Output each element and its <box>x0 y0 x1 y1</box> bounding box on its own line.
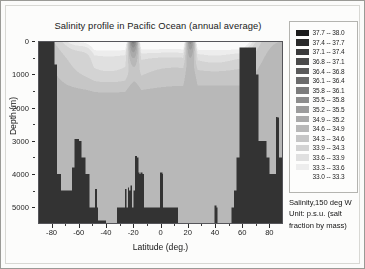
y-tick-label: 5000 <box>12 203 29 212</box>
legend-row: 35.8 -- 36.1 <box>296 86 345 96</box>
legend-row: 37.7 -- 38.0 <box>296 28 345 38</box>
legend-box: 37.7 -- 38.037.4 -- 37.737.1 -- 37.436.8… <box>289 21 358 193</box>
legend-label: 35.5 -- 35.8 <box>313 96 345 103</box>
x-tick-mark <box>269 224 270 228</box>
x-tick-label: 80 <box>265 228 273 237</box>
legend-swatch <box>296 145 309 152</box>
legend-label: 35.2 -- 35.5 <box>313 106 345 113</box>
legend-label: 33.3 -- 33.6 <box>313 164 345 171</box>
x-tick-minor <box>65 224 66 226</box>
x-tick-label: 20 <box>183 228 191 237</box>
legend-swatch <box>296 77 309 84</box>
caption-line-1: Salinity,150 deg W <box>289 197 365 208</box>
legend-label: 34.9 -- 35.2 <box>313 116 345 123</box>
y-tick-mark <box>32 141 36 142</box>
x-tick-mark <box>79 224 80 228</box>
y-tick-minor <box>33 58 35 59</box>
y-axis-ticks: 010002000300040005000 <box>1 41 35 224</box>
y-tick-minor <box>33 124 35 125</box>
legend-row: 37.4 -- 37.7 <box>296 38 345 48</box>
x-tick-minor <box>201 224 202 226</box>
legend-swatch <box>296 87 309 94</box>
legend-swatch <box>296 39 309 46</box>
y-tick-minor <box>33 191 35 192</box>
x-axis-label: Latitude (deg.) <box>38 242 283 252</box>
y-tick-mark <box>32 74 36 75</box>
caption-line-3: fraction by mass) <box>289 220 365 231</box>
legend-rows: 37.7 -- 38.037.4 -- 37.737.1 -- 37.436.8… <box>296 28 345 182</box>
legend-label: 37.1 -- 37.4 <box>313 48 345 55</box>
legend-label: 37.4 -- 37.7 <box>313 39 345 46</box>
x-tick-label: -40 <box>101 228 112 237</box>
legend-row: 36.4 -- 36.8 <box>296 66 345 76</box>
legend-row: 34.9 -- 35.2 <box>296 114 345 124</box>
legend-row: 33.9 -- 34.3 <box>296 143 345 153</box>
legend-swatch <box>296 49 309 56</box>
legend-swatch <box>296 106 309 113</box>
legend-caption: Salinity,150 deg W Unit: p.s.u. (salt fr… <box>289 197 365 231</box>
legend-label: 37.7 -- 38.0 <box>313 29 345 36</box>
x-tick-label: -20 <box>128 228 139 237</box>
x-tick-minor <box>229 224 230 226</box>
x-tick-mark <box>242 224 243 228</box>
legend-row: 37.1 -- 37.4 <box>296 47 345 57</box>
legend-row: 34.6 -- 34.9 <box>296 124 345 134</box>
legend-label: 33.9 -- 34.3 <box>313 144 345 151</box>
legend-row: 35.5 -- 35.8 <box>296 95 345 105</box>
legend-row: 33.3 -- 33.6 <box>296 162 345 172</box>
legend-label: 36.1 -- 36.4 <box>313 77 345 84</box>
legend-row: 33.0 -- 33.3 <box>296 172 345 182</box>
legend-row: 33.6 -- 33.9 <box>296 153 345 163</box>
x-tick-minor <box>147 224 148 226</box>
legend-label: 36.4 -- 36.8 <box>313 68 345 75</box>
x-tick-minor <box>92 224 93 226</box>
x-tick-label: -60 <box>73 228 84 237</box>
x-tick-mark <box>106 224 107 228</box>
legend-swatch <box>296 173 309 180</box>
x-tick-mark <box>161 224 162 228</box>
salinity-field-canvas <box>38 41 283 224</box>
x-tick-mark <box>133 224 134 228</box>
y-tick-mark <box>32 108 36 109</box>
legend-label: 34.3 -- 34.6 <box>313 135 345 142</box>
x-tick-label: -80 <box>46 228 57 237</box>
legend-swatch <box>296 125 309 132</box>
x-axis-ticks: -80-60-40-20020406080 <box>38 224 283 242</box>
legend-swatch <box>296 68 309 75</box>
x-tick-mark <box>215 224 216 228</box>
y-tick-minor <box>33 157 35 158</box>
y-tick-label: 4000 <box>12 170 29 179</box>
legend-swatch <box>296 135 309 142</box>
y-tick-mark <box>32 41 36 42</box>
x-tick-minor <box>174 224 175 226</box>
legend-label: 34.6 -- 34.9 <box>313 125 345 132</box>
x-tick-mark <box>188 224 189 228</box>
legend-swatch <box>296 164 309 171</box>
legend-label: 33.6 -- 33.9 <box>313 154 345 161</box>
legend-swatch <box>296 58 309 65</box>
x-tick-label: 0 <box>158 228 162 237</box>
y-tick-label: 0 <box>25 37 29 46</box>
y-tick-label: 1000 <box>12 70 29 79</box>
legend-swatch <box>296 97 309 104</box>
figure-container: Salinity profile in Pacific Ocean (annua… <box>0 0 365 269</box>
legend-row: 35.2 -- 35.5 <box>296 105 345 115</box>
y-tick-mark <box>32 174 36 175</box>
x-tick-mark <box>52 224 53 228</box>
legend-row: 36.1 -- 36.4 <box>296 76 345 86</box>
legend-swatch <box>296 116 309 123</box>
page-title: Salinity profile in Pacific Ocean (annua… <box>29 20 287 31</box>
legend-row: 34.3 -- 34.6 <box>296 134 345 144</box>
salinity-contour-plot <box>38 41 283 224</box>
legend-row: 36.8 -- 37.1 <box>296 57 345 67</box>
y-tick-minor <box>33 91 35 92</box>
x-tick-label: 60 <box>238 228 246 237</box>
legend-swatch <box>296 154 309 161</box>
x-tick-minor <box>120 224 121 226</box>
caption-line-2: Unit: p.s.u. (salt <box>289 208 365 219</box>
x-tick-label: 40 <box>211 228 219 237</box>
legend-label: 33.0 -- 33.3 <box>313 173 345 180</box>
legend-swatch <box>296 30 309 37</box>
y-tick-mark <box>32 207 36 208</box>
y-axis-label: Depth (m) <box>8 81 18 151</box>
